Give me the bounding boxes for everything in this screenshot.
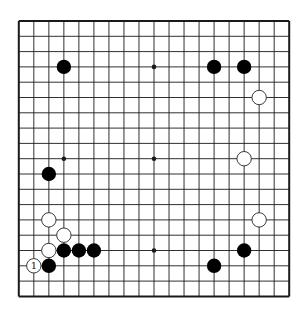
black-stone[interactable] (42, 167, 56, 181)
white-stone[interactable]: 1 (27, 259, 41, 273)
white-stone-disc (237, 152, 251, 166)
black-stone-disc (237, 60, 251, 74)
white-stone-disc (42, 243, 56, 257)
black-stone-disc (72, 243, 86, 257)
black-stone[interactable] (42, 259, 56, 273)
white-stone[interactable] (42, 243, 56, 257)
black-stone[interactable] (57, 243, 71, 257)
white-stone-disc (252, 213, 266, 227)
black-stone-disc (42, 259, 56, 273)
white-stone[interactable] (252, 90, 266, 104)
move-number-label: 1 (31, 260, 37, 271)
white-stone-disc (252, 90, 266, 104)
white-stone[interactable] (57, 228, 71, 242)
white-stone[interactable] (252, 213, 266, 227)
black-stone-disc (207, 60, 221, 74)
go-board-svg: 1 (0, 0, 307, 313)
stones-layer: 1 (27, 60, 267, 273)
star-point (62, 156, 67, 161)
black-stone[interactable] (207, 259, 221, 273)
black-stone[interactable] (87, 243, 101, 257)
black-stone[interactable] (237, 60, 251, 74)
black-stone[interactable] (57, 60, 71, 74)
black-stone-disc (57, 243, 71, 257)
black-stone-disc (207, 259, 221, 273)
black-stone-disc (87, 243, 101, 257)
black-stone-disc (42, 167, 56, 181)
white-stone-disc (42, 213, 56, 227)
black-stone[interactable] (72, 243, 86, 257)
black-stone-disc (57, 60, 71, 74)
star-point (152, 156, 157, 161)
white-stone[interactable] (237, 152, 251, 166)
white-stone-disc (57, 228, 71, 242)
black-stone[interactable] (207, 60, 221, 74)
star-point (152, 248, 157, 253)
star-point (152, 65, 157, 70)
white-stone[interactable] (42, 213, 56, 227)
black-stone[interactable] (237, 243, 251, 257)
black-stone-disc (237, 243, 251, 257)
go-board: 1 (0, 0, 307, 313)
